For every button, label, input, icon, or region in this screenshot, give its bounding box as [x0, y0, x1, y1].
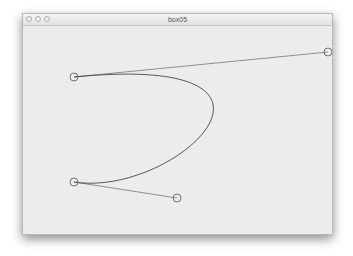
title-bar[interactable]: box05 [23, 14, 332, 26]
sketch-canvas[interactable] [23, 26, 332, 234]
bezier-curve [74, 74, 213, 183]
handle-line-1 [74, 52, 328, 77]
app-window: box05 [22, 13, 333, 235]
window-title: box05 [23, 14, 332, 25]
handle-line-2 [74, 182, 177, 198]
